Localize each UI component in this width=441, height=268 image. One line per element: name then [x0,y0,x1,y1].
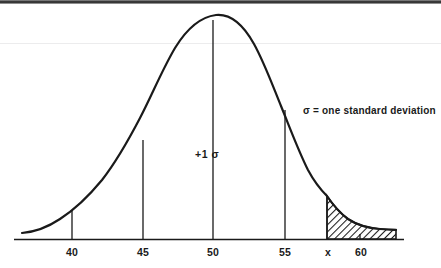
legend-sigma-definition: σ = one standard deviation [303,105,436,116]
vertical-marker-lines [72,20,327,239]
bell-curve-path [22,15,396,233]
curve-canvas [0,0,441,268]
x-tick-label-60: 60 [355,246,367,258]
x-tick-label-45: 45 [137,246,149,258]
center-sigma-annotation: +1 σ [195,148,219,160]
normal-distribution-figure: +1 σ σ = one standard deviation 40 45 50… [0,0,441,268]
x-tick-label-50: 50 [207,246,219,258]
x-tick-label-40: 40 [66,246,78,258]
x-tick-label-x: x [325,246,331,258]
x-tick-label-55: 55 [279,246,291,258]
shaded-tail-region [320,190,402,242]
